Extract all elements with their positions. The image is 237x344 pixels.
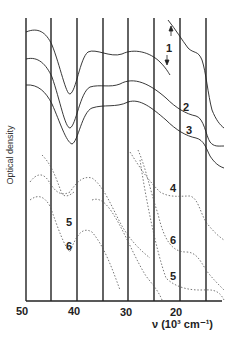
- curve-1a: [26, 30, 170, 94]
- curve-label-3: 3: [186, 124, 192, 136]
- plot-area: [0, 0, 237, 344]
- y-axis-label: Optical density: [5, 125, 15, 184]
- curve-6b: [138, 150, 224, 290]
- x-tick-50: 50: [16, 305, 28, 317]
- gridlines: [26, 18, 206, 301]
- curve-6a: [30, 197, 120, 290]
- curve-label-4: 4: [170, 182, 176, 194]
- x-tick-40: 40: [68, 305, 80, 317]
- curve-1b: [168, 20, 224, 128]
- curve-5a: [30, 175, 150, 258]
- curve-3: [26, 85, 224, 168]
- x-tick-30: 30: [120, 306, 132, 318]
- curve-5c: [140, 160, 224, 300]
- curve-label-5-right: 5: [170, 270, 176, 282]
- curve-label-6-right: 6: [170, 234, 176, 246]
- curve-label-6-left: 6: [66, 240, 72, 252]
- curve-label-1: 1: [166, 42, 172, 54]
- x-axis-label: ν (10³ cm⁻¹): [152, 318, 213, 331]
- curve-label-2: 2: [183, 101, 189, 113]
- curve-4b: [130, 152, 224, 240]
- curve-2: [26, 58, 224, 146]
- curve-4a: [42, 155, 74, 196]
- curve-label-5-left: 5: [66, 216, 72, 228]
- x-tick-20: 20: [170, 306, 182, 318]
